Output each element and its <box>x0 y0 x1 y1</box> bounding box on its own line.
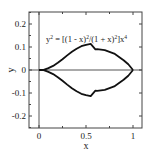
y-tick-label: -0.2 <box>12 111 26 121</box>
y-tick-label: -0.1 <box>12 88 26 98</box>
x-axis-label: x <box>84 140 89 151</box>
chart-svg: 0.2 0.1 0 -0.1 -0.2 0 0.5 1 x y y2 = [(1… <box>0 0 151 151</box>
chart-title: y2 = [(1 - x)2/(1 + x)2]x4 <box>46 34 127 44</box>
upper-branch-curve <box>39 44 133 70</box>
lower-branch-curve <box>39 70 133 96</box>
y-tick-label: 0.1 <box>15 42 26 52</box>
chart: 0.2 0.1 0 -0.1 -0.2 0 0.5 1 x y y2 = [(1… <box>0 0 151 151</box>
y-tick-label: 0 <box>22 65 27 75</box>
y-axis-label: y <box>5 68 16 73</box>
x-tick-label: 1 <box>131 131 136 141</box>
y-tick-label: 0.2 <box>15 19 26 29</box>
x-tick-label: 0 <box>37 131 42 141</box>
